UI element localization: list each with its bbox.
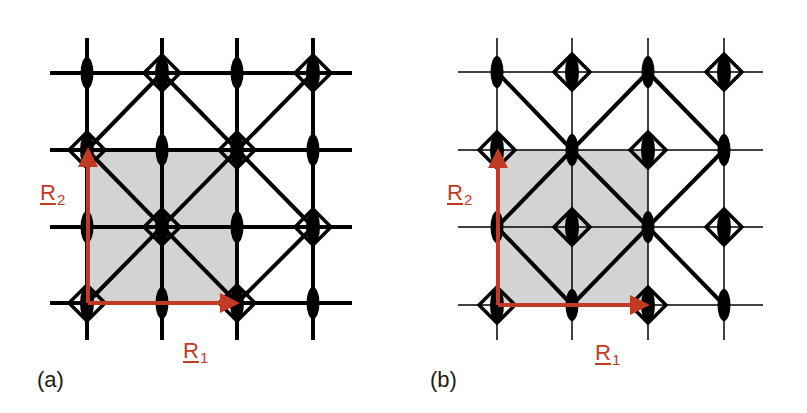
glide-line <box>87 73 162 150</box>
panel-b-lattice <box>458 38 763 340</box>
vector-symbol: R <box>183 338 199 363</box>
fourfold-axis-core-icon <box>717 55 731 89</box>
twofold-axis-icon <box>156 134 169 166</box>
glide-line <box>572 72 648 150</box>
fourfold-axis-core-icon <box>717 210 731 244</box>
vector-subscript: 2 <box>464 191 472 208</box>
fourfold-axis-core-icon <box>306 210 320 244</box>
fourfold-axis-core-icon <box>155 210 169 244</box>
fourfold-axis-core-icon <box>306 56 320 90</box>
glide-line <box>497 72 572 150</box>
twofold-axis-icon <box>718 134 731 166</box>
panel-a-r1-label: R1 <box>183 340 208 362</box>
fourfold-axis-core-icon <box>565 55 579 89</box>
twofold-axis-icon <box>642 211 655 243</box>
panel-b-r2-label: R2 <box>447 182 472 204</box>
fourfold-axis-core-icon <box>641 133 655 167</box>
panel-a-label: (a) <box>37 367 64 393</box>
fourfold-axis-core-icon <box>155 56 169 90</box>
vector-symbol: R <box>447 180 463 205</box>
vector-subscript: 2 <box>57 191 65 208</box>
panel-b-label: (b) <box>430 367 457 393</box>
panel-b-r1-label: R1 <box>595 342 620 364</box>
symmetry-diagram <box>0 0 807 413</box>
vector-symbol: R <box>40 180 56 205</box>
fourfold-axis-core-icon <box>230 133 244 167</box>
glide-line <box>648 72 724 150</box>
glide-line <box>237 227 313 303</box>
panel-a-r2-label: R2 <box>40 182 65 204</box>
vector-symbol: R <box>595 340 611 365</box>
twofold-axis-icon <box>231 211 244 243</box>
vector-subscript: 1 <box>612 351 620 368</box>
twofold-axis-icon <box>566 134 579 166</box>
twofold-axis-icon <box>718 289 731 321</box>
twofold-axis-icon <box>307 287 320 319</box>
panel-a-lattice <box>50 38 352 340</box>
twofold-axis-icon <box>642 56 655 88</box>
glide-line <box>648 227 724 305</box>
fourfold-axis-core-icon <box>565 210 579 244</box>
vector-subscript: 1 <box>200 349 208 366</box>
twofold-axis-icon <box>231 57 244 89</box>
twofold-axis-icon <box>491 56 504 88</box>
glide-line <box>648 150 724 227</box>
twofold-axis-icon <box>81 57 94 89</box>
twofold-axis-icon <box>307 134 320 166</box>
